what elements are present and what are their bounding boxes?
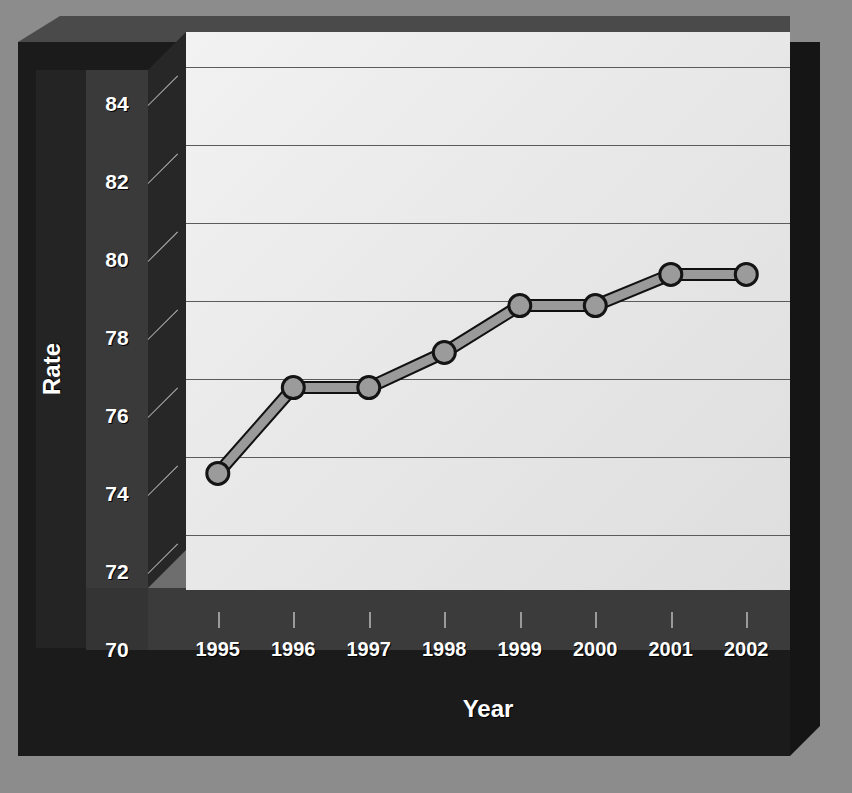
x-axis-tick: [218, 612, 220, 628]
x-axis-tick: [369, 612, 371, 628]
data-point-marker[interactable]: [584, 295, 606, 317]
x-axis-tick-label: 1998: [406, 638, 482, 661]
x-axis-tick-label: 2002: [708, 638, 784, 661]
x-axis-tick-label: 2001: [633, 638, 709, 661]
x-axis-title: Year: [186, 695, 790, 723]
data-point-marker[interactable]: [660, 263, 682, 285]
y-axis-tick-label: 70: [86, 638, 148, 662]
x-axis-tick-label: 1997: [331, 638, 407, 661]
chart-canvas: 8482807876747270 19951996199719981999200…: [0, 0, 852, 793]
series-line: [218, 274, 747, 473]
x-axis-tick-label: 1999: [482, 638, 558, 661]
data-point-marker[interactable]: [735, 263, 757, 285]
series-markers: [207, 263, 758, 484]
x-axis-tick: [746, 612, 748, 628]
y-axis-tick-label: 80: [86, 248, 148, 272]
x-axis-tick-label: 2000: [557, 638, 633, 661]
y-axis-tick-label: 84: [86, 92, 148, 116]
x-axis-tick: [671, 612, 673, 628]
y-axis-tick-label: 76: [86, 404, 148, 428]
x-axis-tick: [595, 612, 597, 628]
x-axis-tick-label: 1995: [180, 638, 256, 661]
data-point-marker[interactable]: [509, 295, 531, 317]
x-axis-tick: [520, 612, 522, 628]
data-point-marker[interactable]: [207, 462, 229, 484]
x-axis-tick-label: 1996: [255, 638, 331, 661]
series-layer: [186, 32, 790, 590]
y-axis-tick-label: 72: [86, 560, 148, 584]
series-line-outline: [218, 274, 747, 473]
frame-right-bevel: [790, 42, 820, 756]
x-axis-tick: [293, 612, 295, 628]
data-point-marker[interactable]: [433, 342, 455, 364]
x-axis-tick: [444, 612, 446, 628]
data-point-marker[interactable]: [358, 377, 380, 399]
data-point-marker[interactable]: [282, 377, 304, 399]
y-axis-tick-label: 78: [86, 326, 148, 350]
y-axis-tick-label: 74: [86, 482, 148, 506]
y-axis-tick-label: 82: [86, 170, 148, 194]
y-axis-title: Rate: [38, 309, 66, 429]
